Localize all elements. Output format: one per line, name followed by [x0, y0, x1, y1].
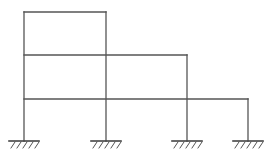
beams: [24, 12, 248, 99]
support-4-fixed-support-icon: [233, 141, 263, 148]
support-3-fixed-support-icon: [172, 141, 202, 148]
fixed-supports: [9, 141, 263, 148]
support-2-fixed-support-icon: [91, 141, 121, 148]
support-1-fixed-support-icon: [9, 141, 39, 148]
columns: [24, 12, 248, 141]
frame-drawing: [0, 0, 271, 162]
frame-diagram: [0, 0, 271, 162]
